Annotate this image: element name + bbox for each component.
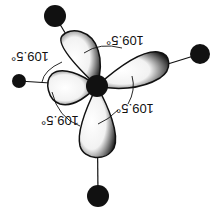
central-nucleus (86, 75, 108, 97)
angle-label-left: 109.5° (11, 49, 49, 64)
atom-upper-left (44, 5, 66, 27)
atom-bottom (87, 185, 109, 207)
angle-label-right: 109.5° (116, 101, 154, 116)
sp3-orbital-diagram: 109.5° 109.5° 109.5° 109.5° (0, 0, 220, 217)
atom-left (12, 74, 26, 88)
orbital-lobes (48, 31, 169, 158)
angle-label-top: 109.5° (106, 33, 144, 48)
angle-label-bottom: 109.5° (41, 113, 79, 128)
atom-right (190, 44, 210, 64)
